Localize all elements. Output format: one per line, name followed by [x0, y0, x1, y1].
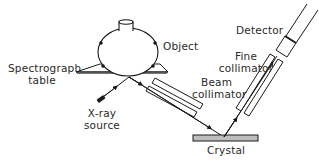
- fine-collimator-label-line1: Fine: [216, 50, 276, 62]
- xray-source: [97, 77, 129, 103]
- spectrograph-table-label: Spectrograph table: [8, 62, 76, 86]
- beam-collimator-label-line1: Beam: [192, 76, 252, 88]
- beam-collimator-label-line2: collimator: [192, 88, 252, 100]
- xray-source-label-line1: X-ray: [82, 107, 122, 119]
- detector-label: Detector: [236, 24, 283, 36]
- xray-source-label-line2: source: [82, 119, 122, 131]
- fine-collimator-label: Fine collimator: [216, 50, 276, 74]
- object-label: Object: [163, 40, 198, 52]
- object-pot: [98, 20, 158, 76]
- beam-collimator-label: Beam collimator: [192, 76, 252, 100]
- crystal-label: Crystal: [207, 144, 245, 156]
- xray-source-label: X-ray source: [82, 107, 122, 131]
- crystal: [193, 135, 258, 141]
- spectrograph-table-label-line1: Spectrograph: [8, 62, 76, 74]
- spectrograph-table-label-line2: table: [8, 74, 76, 86]
- fine-collimator-label-line2: collimator: [216, 62, 276, 74]
- diagram: Object Spectrograph table X-ray source B…: [0, 0, 319, 163]
